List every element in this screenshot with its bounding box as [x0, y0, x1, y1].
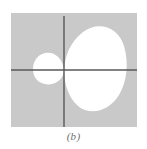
limacon-plot — [11, 13, 137, 127]
figure-container: (b) — [0, 0, 147, 149]
plot-panel — [11, 13, 137, 127]
figure-caption: (b) — [0, 129, 147, 143]
